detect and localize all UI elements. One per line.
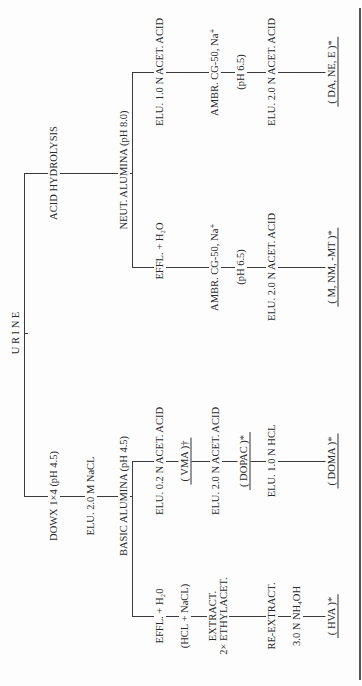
top-a-elu1: ELU. 1.0 N ACET. ACID — [154, 14, 166, 130]
urine-tick — [24, 333, 28, 334]
page-border — [359, 8, 361, 680]
bottom-a-elu1: ELU. 0.2 N ACET. ACID — [154, 403, 166, 519]
trunk-line — [24, 173, 25, 497]
product-m-nm-mt: ( M, NM, -MT )* — [326, 227, 339, 306]
dowx: DOWX 1×4 (pH 4.5) — [48, 447, 60, 545]
bottom-b-effl: EFFL. + H₂0 — [154, 585, 166, 648]
bottom-b-reextract: RE-EXTRACT. — [266, 578, 278, 653]
elu-nacl: ELU. 2.0 M NaCL — [85, 452, 97, 539]
top-a-ph: (pH 6.5) — [235, 51, 247, 93]
top-b-ambr: AMBR. CG-50, Na⁺ — [209, 220, 221, 314]
extract-line2: 2× ETHYLACET. — [218, 577, 229, 654]
neut-bracket — [132, 72, 133, 268]
neut-alumina: NEUT. ALUMINA (pH 8.0) — [118, 110, 130, 229]
root-urine: U R I N E — [10, 312, 22, 355]
bottom-a-elu3: ELU. 1.0 N HCL — [266, 421, 278, 502]
bottom-b-nh4oh: 3.0 N NH₄OH — [291, 582, 303, 650]
basic-alumina: BASIC ALUMINA (pH 4.5) — [118, 436, 130, 556]
product-dopac: ( DOPAC )* — [238, 432, 251, 490]
bottom-branch-line — [24, 496, 132, 497]
top-b-ph: (pH 6.5) — [235, 246, 247, 288]
acid-hydrolysis: ACID HYDROLYSIS — [48, 122, 60, 224]
basic-bracket — [132, 461, 133, 617]
extract-line1: EXTRACT. — [207, 577, 218, 654]
product-doma: ( DOMA )* — [326, 434, 339, 489]
bottom-b-hcl-nacl: (HCL + NaCL) — [179, 580, 191, 652]
flowchart-canvas: U R I N E ACID HYDROLYSIS NEUT. ALUMINA … — [0, 0, 362, 686]
top-b-elu2: ELU. 2.0 N ACET. ACID — [266, 209, 278, 325]
top-branch-line — [24, 173, 132, 174]
top-a-elu2: ELU. 2.0 N ACET. ACID — [266, 14, 278, 130]
product-da-ne-e: ( DA, NE, E )* — [326, 37, 339, 107]
bottom-b-extract: EXTRACT. 2× ETHYLACET. — [207, 573, 229, 658]
top-a-ambr: AMBR. CG-50, Na⁺ — [209, 25, 221, 119]
product-hva: ( HVA )* — [326, 594, 339, 638]
bottom-a-elu2: ELU. 2.0 N ACET. ACID — [210, 403, 222, 519]
product-vma: ( VMA )† — [179, 437, 192, 484]
top-b-effl: EFFL. + H₂O — [154, 219, 166, 282]
